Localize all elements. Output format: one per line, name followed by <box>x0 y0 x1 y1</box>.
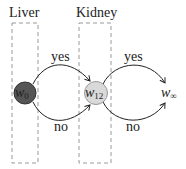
edge-w12-winf-yes <box>103 65 165 84</box>
group-label-liver: Liver <box>9 6 39 20</box>
edge-w12-winf-no <box>103 102 165 120</box>
edge-label-no-1: no <box>54 120 68 134</box>
edge-label-yes-2: yes <box>124 50 143 64</box>
node-label-w12: w12 <box>85 86 103 101</box>
edge-w0-w12-no <box>33 102 90 120</box>
edge-label-no-2: no <box>126 120 140 134</box>
node-label-w0: w0 <box>15 86 29 101</box>
edge-label-yes-1: yes <box>51 50 70 64</box>
node-label-winf: w∞ <box>161 86 177 101</box>
edge-w0-w12-yes <box>33 65 90 84</box>
group-label-kidney: Kidney <box>76 6 117 20</box>
